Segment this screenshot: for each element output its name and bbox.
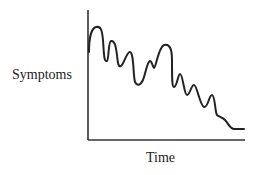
- symptoms-curve: [89, 27, 244, 129]
- x-axis-label: Time: [146, 149, 175, 167]
- symptoms-over-time-chart: Symptoms Time: [0, 0, 257, 175]
- y-axis-label: Symptoms: [12, 66, 72, 84]
- chart-canvas: [0, 0, 257, 175]
